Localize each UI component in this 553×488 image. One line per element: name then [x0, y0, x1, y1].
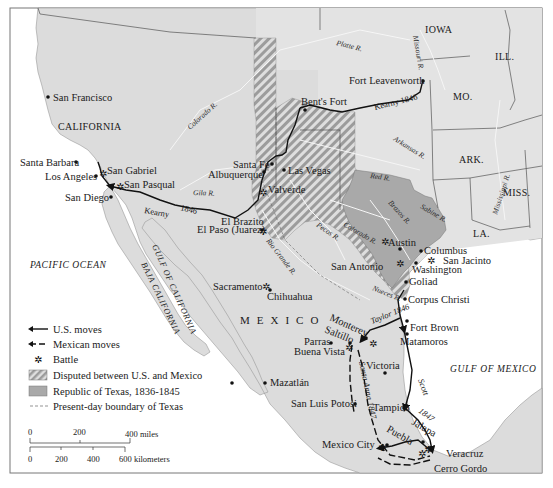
missouri-label: MO. — [453, 91, 473, 102]
city-buena-vista: Buena Vista — [294, 346, 345, 357]
legend-texas-label: Republic of Texas, 1836-1845 — [53, 386, 180, 397]
legend-boundary-label: Present-day boundary of Texas — [53, 401, 183, 412]
svg-text:✲: ✲ — [369, 338, 377, 349]
city-el-paso: El Paso (Juarez) — [197, 224, 266, 236]
legend-boundary: Present-day boundary of Texas — [30, 401, 183, 412]
city-mexico-city: Mexico City — [322, 439, 376, 450]
city-san-luis-potosi: San Luis Potosi — [291, 398, 357, 409]
city-san-gabriel: San Gabriel — [107, 165, 157, 176]
arkansas-label: ARK. — [459, 154, 484, 165]
city-austin: Austin — [388, 237, 417, 248]
city-sacramento: Sacramento — [213, 281, 263, 292]
city-mazatlan: Mazatlán — [270, 377, 310, 388]
scale-km-400: 400 — [87, 454, 100, 464]
scale-km-600: 600 kilometers — [119, 454, 170, 464]
city-santa-barbara: Santa Barbara — [20, 157, 80, 168]
city-las-vegas: Las Vegas — [288, 165, 331, 176]
legend-disputed: Disputed between U.S. and Mexico — [29, 370, 202, 381]
city-goliad: Goliad — [409, 276, 438, 287]
city-bents-fort: Bent's Fort — [301, 96, 347, 107]
city-san-antonio: San Antonio — [331, 261, 383, 272]
city-fort-leavenworth: Fort Leavenworth — [349, 75, 425, 86]
iowa-label: IOWA — [425, 24, 453, 35]
pacific-ocean-label: PACIFIC OCEAN — [29, 260, 107, 270]
louisiana-label: LA. — [473, 228, 490, 239]
city-los-angeles: Los Angeles — [45, 171, 97, 182]
legend-battle-label: Battle — [53, 354, 78, 365]
svg-text:✲: ✲ — [424, 444, 432, 455]
city-valverde: Valverde — [268, 184, 306, 195]
scale-km-200: 200 — [55, 454, 68, 464]
legend-us-moves-label: U.S. moves — [53, 324, 102, 335]
city-washington: Washington — [412, 264, 463, 275]
battle-icon: ✲ — [34, 354, 42, 365]
city-albuquerque: Albuquerque — [208, 169, 263, 180]
mexican-war-map: ✲✲✲ ✲✲✲ ✲✲✲ ✲✲✲✲ PACIFIC OCEAN GULF OF M… — [0, 0, 553, 488]
city-chihuahua: Chihuahua — [267, 291, 313, 302]
city-matamoros: Matamoros — [400, 336, 448, 347]
scale-miles-0: 0 — [28, 427, 32, 437]
scale-km-0: 0 — [28, 454, 32, 464]
city-san-diego: San Diego — [65, 192, 109, 203]
gila-river-label: Gila R. — [193, 188, 215, 198]
california-label: CALIFORNIA — [58, 121, 122, 132]
city-veracruz: Veracruz — [446, 448, 484, 459]
city-victoria: Victoria — [366, 360, 400, 371]
illinois-label: ILL. — [495, 51, 514, 62]
legend-disputed-label: Disputed between U.S. and Mexico — [53, 370, 202, 381]
city-fort-brown: Fort Brown — [410, 322, 459, 333]
city-cerro-gordo: Cerro Gordo — [434, 463, 487, 474]
city-san-pasqual: San Pasqual — [124, 179, 175, 190]
scale-miles-400: 400 miles — [125, 429, 158, 439]
mexico-label: MEXICO — [240, 314, 325, 326]
svg-text:✲: ✲ — [378, 442, 386, 453]
legend-mexican-moves-label: Mexican moves — [53, 339, 120, 350]
city-corpus-christi: Corpus Christi — [408, 294, 470, 305]
svg-text:✲: ✲ — [396, 258, 404, 269]
svg-text:✲: ✲ — [259, 187, 267, 198]
gulf-of-mexico-label: GULF OF MEXICO — [450, 364, 537, 374]
city-san-francisco: San Francisco — [53, 92, 112, 103]
scale-miles-200: 200 — [73, 427, 86, 437]
legend-battle: ✲ Battle — [34, 354, 78, 365]
